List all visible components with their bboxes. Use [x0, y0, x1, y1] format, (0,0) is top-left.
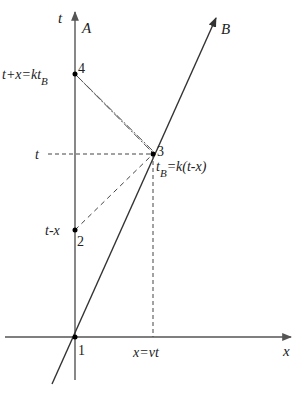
point-4-label: 4: [78, 61, 85, 76]
signal-3-to-4-a: [75, 74, 152, 152]
point-3-annotation: tB=k(t-x): [156, 159, 207, 179]
point-3: [151, 152, 156, 157]
point-4: [73, 72, 78, 77]
point-4-annotation: t+x=ktB: [2, 67, 48, 87]
point-1: [73, 335, 78, 340]
worldline-b-label: B: [221, 21, 230, 37]
point-2-label: 2: [77, 234, 84, 249]
worldline-a-label: A: [81, 20, 92, 36]
t-axis-label: t: [58, 10, 63, 26]
t-level-label: t: [35, 147, 40, 162]
point-1-label: 1: [78, 343, 85, 358]
signal-2-to-3: [75, 154, 153, 230]
x-position-label: x=vt: [132, 345, 160, 360]
spacetime-diagram: t A B x 1 2 3 4 t+x=ktB tB=k(t-x) t-x t …: [0, 0, 301, 394]
point-3-label: 3: [157, 144, 164, 159]
point-2-annotation: t-x: [45, 223, 61, 238]
point-2: [73, 228, 78, 233]
signal-3-to-4-b: [77, 76, 155, 153]
x-axis-label: x: [282, 343, 290, 359]
